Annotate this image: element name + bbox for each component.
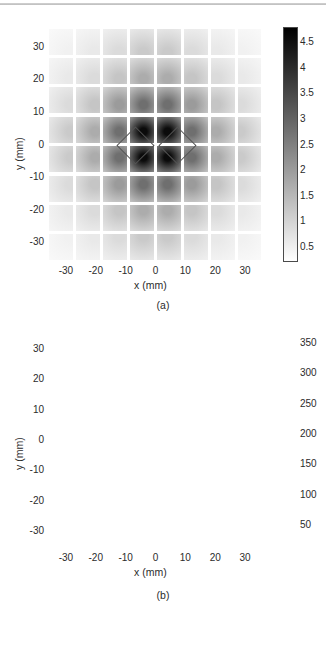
heatmap-cell — [130, 176, 154, 202]
x-tick-label: 20 — [200, 266, 230, 276]
heatmap-cell — [157, 176, 181, 202]
heatmap-cell — [211, 29, 235, 55]
heatmap-cell — [184, 234, 208, 260]
y-tick-label: -10 — [18, 465, 44, 475]
colorbar-tick-label: 4.5 — [300, 37, 314, 47]
heatmap-cell — [103, 205, 127, 231]
heatmap-cell — [157, 205, 181, 231]
heatmap-cell — [238, 87, 262, 113]
panel-b-caption: (b) — [0, 590, 326, 601]
heatmap-cell — [49, 146, 73, 172]
x-tick-label: 30 — [230, 266, 260, 276]
y-tick-label: 30 — [18, 42, 44, 52]
x-tick-label: -20 — [81, 553, 111, 563]
heatmap-cell — [130, 234, 154, 260]
y-tick-label: 10 — [18, 405, 44, 415]
heatmap-cell — [76, 176, 100, 202]
heatmap-cell — [238, 58, 262, 84]
colorbar-tick-label: 300 — [300, 368, 317, 378]
colorbar-tick-label: 350 — [300, 338, 317, 348]
heatmap-cell — [49, 117, 73, 143]
heatmap-cell — [184, 87, 208, 113]
heatmap-cell — [76, 205, 100, 231]
heatmap-cell — [130, 205, 154, 231]
y-tick-label: 30 — [18, 344, 44, 354]
x-tick-label: 0 — [141, 266, 171, 276]
y-tick-label: -30 — [18, 526, 44, 536]
x-tick-label: -20 — [81, 266, 111, 276]
y-tick-label: -30 — [18, 237, 44, 247]
heatmap-cell — [184, 58, 208, 84]
x-tick-label: 10 — [170, 266, 200, 276]
x-tick-label: -10 — [111, 266, 141, 276]
heatmap-cell — [76, 146, 100, 172]
heatmap-cell — [157, 234, 181, 260]
heatmap-cell — [211, 117, 235, 143]
heatmap-cell — [211, 234, 235, 260]
y-tick-label: 20 — [18, 74, 44, 84]
heatmap-cell — [103, 58, 127, 84]
colorbar-tick-label: 1.5 — [300, 191, 314, 201]
panel-a: y (mm) x (mm) (a) -30-20-100102030302010… — [0, 0, 326, 320]
colorbar-tick-label: 4 — [300, 63, 306, 73]
x-tick-label: -30 — [51, 266, 81, 276]
heatmap-cell — [211, 87, 235, 113]
heatmap-cell — [103, 87, 127, 113]
colorbar-tick-label: 3.5 — [300, 88, 314, 98]
panel-b: y (mm) x (mm) (b) -30-20-100102030302010… — [0, 320, 326, 645]
heatmap-cell — [157, 29, 181, 55]
heatmap-cell — [211, 205, 235, 231]
y-tick-label: -10 — [18, 172, 44, 182]
panel-a-colorbar-gradient — [284, 28, 297, 261]
heatmap-cell — [76, 58, 100, 84]
heatmap-cell — [76, 87, 100, 113]
colorbar-tick-label: 50 — [300, 520, 311, 530]
heatmap-cell — [157, 87, 181, 113]
heatmap-cell — [103, 29, 127, 55]
heatmap-cell — [184, 205, 208, 231]
heatmap-cell — [184, 176, 208, 202]
panel-b-x-axis-label: x (mm) — [134, 567, 167, 578]
colorbar-tick-label: 1 — [300, 216, 306, 226]
heatmap-cell — [238, 117, 262, 143]
heatmap-cell — [49, 205, 73, 231]
heatmap-cell — [49, 234, 73, 260]
x-tick-label: -30 — [51, 553, 81, 563]
colorbar-tick-label: 100 — [300, 490, 317, 500]
heatmap-cell — [238, 205, 262, 231]
heatmap-cell — [238, 234, 262, 260]
heatmap-cell — [76, 117, 100, 143]
heatmap-cell — [211, 176, 235, 202]
y-tick-label: -20 — [18, 496, 44, 506]
colorbar-tick-label: 250 — [300, 399, 317, 409]
y-tick-label: 0 — [18, 140, 44, 150]
y-tick-label: 20 — [18, 374, 44, 384]
heatmap-cell — [211, 146, 235, 172]
panel-a-x-axis-label: x (mm) — [134, 280, 167, 291]
heatmap-cell — [103, 234, 127, 260]
colorbar-tick-label: 2.5 — [300, 140, 314, 150]
heatmap-cell — [130, 29, 154, 55]
panel-a-plot-area — [48, 27, 263, 262]
colorbar-tick-label: 3 — [300, 114, 306, 124]
colorbar-tick-label: 0.5 — [300, 242, 314, 252]
y-tick-label: -20 — [18, 205, 44, 215]
heatmap-cell — [49, 58, 73, 84]
heatmap-cell — [76, 29, 100, 55]
colorbar-tick-label: 2 — [300, 165, 306, 175]
x-tick-label: 30 — [230, 553, 260, 563]
heatmap-cell — [238, 29, 262, 55]
heatmap-cell — [211, 58, 235, 84]
y-tick-label: 10 — [18, 107, 44, 117]
y-tick-label: 0 — [18, 435, 44, 445]
heatmap-cell — [184, 29, 208, 55]
heatmap-cell — [49, 176, 73, 202]
heatmap-cell — [103, 176, 127, 202]
heatmap-cell — [157, 58, 181, 84]
figure-root: y (mm) x (mm) (a) -30-20-100102030302010… — [0, 0, 326, 645]
x-tick-label: -10 — [111, 553, 141, 563]
heatmap-cell — [130, 58, 154, 84]
heatmap-cell — [49, 87, 73, 113]
heatmap-cell — [49, 29, 73, 55]
heatmap-cell — [238, 176, 262, 202]
